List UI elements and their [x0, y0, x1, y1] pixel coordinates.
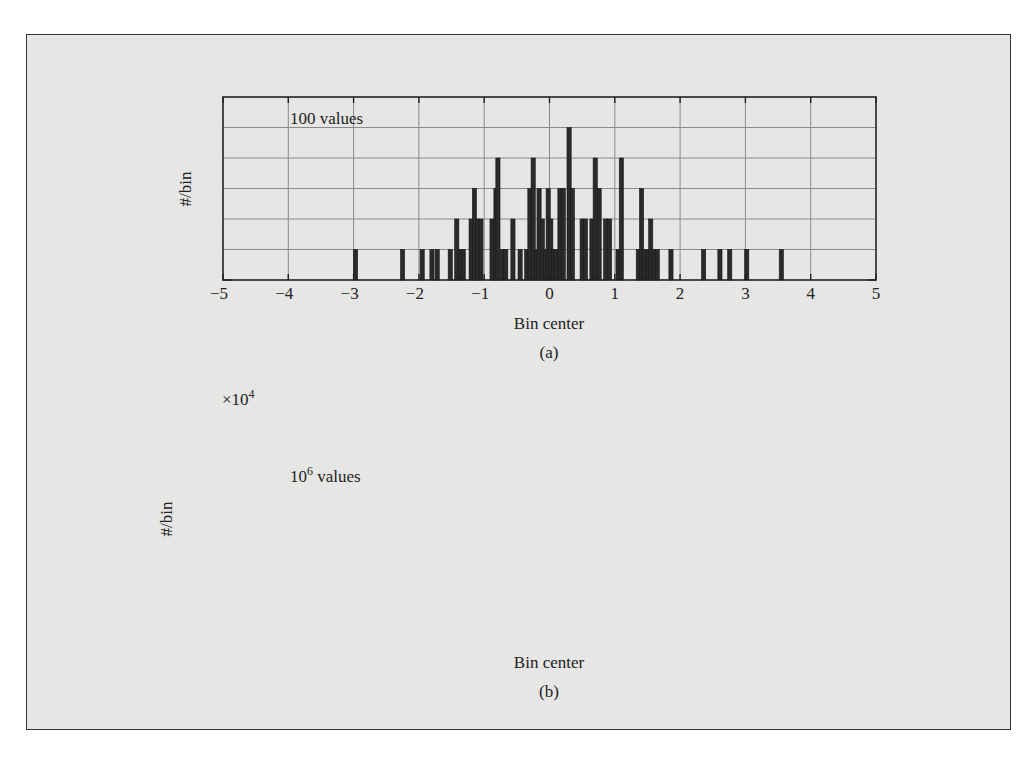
histogram-bar	[518, 250, 522, 281]
x-tick-label: −5	[210, 284, 228, 303]
x-tick-label: −1	[471, 284, 489, 303]
histogram-bar	[593, 158, 597, 280]
histogram-bar	[448, 250, 452, 281]
histogram-bar	[619, 158, 623, 280]
histogram-bar	[430, 250, 434, 281]
histogram-bar	[435, 250, 439, 281]
histogram-figure: −5−4−3−2−1012345 #/bin Bin center (a) 10…	[0, 0, 1036, 763]
histogram-bar	[779, 250, 783, 281]
histogram-bar	[597, 189, 601, 281]
histogram-bar	[400, 250, 404, 281]
x-tick-label: −2	[406, 284, 424, 303]
histogram-bar	[455, 219, 459, 280]
x-tick-label: 4	[806, 284, 815, 303]
histogram-bar	[570, 189, 574, 281]
histogram-bar	[583, 219, 587, 280]
histogram-bar	[655, 250, 659, 281]
histogram-bar	[490, 219, 494, 280]
xlabel-a: Bin center	[514, 314, 585, 333]
x-tick-label: 0	[545, 284, 554, 303]
histogram-bar	[504, 250, 508, 281]
histogram-bar	[702, 250, 706, 281]
caption-b: (b)	[539, 682, 559, 701]
histogram-bar	[669, 250, 673, 281]
xlabel-b: Bin center	[514, 653, 585, 672]
histogram-bar	[642, 250, 646, 281]
histogram-bar	[461, 250, 465, 281]
annotation-b: 106 values	[290, 464, 361, 486]
histogram-bar	[718, 250, 722, 281]
histogram-bar	[561, 189, 565, 281]
histogram-bar	[479, 219, 483, 280]
ylabel-a: #/bin	[176, 171, 195, 206]
annotation-a: 100 values	[290, 109, 363, 128]
x-tick-label: 3	[741, 284, 750, 303]
x-tick-label: −3	[341, 284, 359, 303]
caption-a: (a)	[540, 343, 559, 362]
x-tick-label: 5	[872, 284, 881, 303]
histogram-bar	[420, 250, 424, 281]
x-tick-label: 1	[611, 284, 620, 303]
multiplier-b: ×104	[222, 387, 255, 409]
x-tick-label: 2	[676, 284, 685, 303]
histogram-bar	[554, 250, 558, 281]
ylabel-b: #/bin	[157, 501, 176, 536]
histogram-bar	[728, 250, 732, 281]
histogram-bar	[511, 219, 515, 280]
histogram-bar	[607, 219, 611, 280]
histogram-bar	[604, 219, 608, 280]
x-tick-label: −4	[275, 284, 294, 303]
histogram-bar	[496, 158, 500, 280]
